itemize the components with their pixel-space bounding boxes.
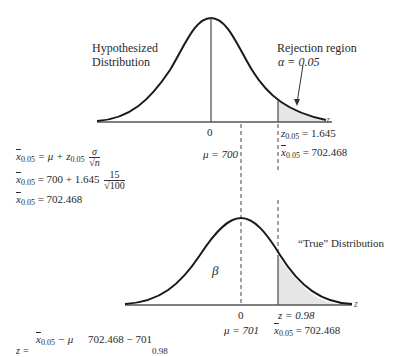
- top-xbar-label: x0.05 = 702.468: [281, 146, 347, 162]
- eq1-sub: 0.05: [21, 155, 35, 164]
- bottom-axis-z-label: z: [354, 298, 358, 310]
- top-mu-label: μ = 700: [203, 148, 238, 160]
- eq1-rhs: = μ +: [38, 150, 67, 162]
- eq2-sub: 0.05: [21, 178, 35, 187]
- rejection-region-label: Rejection region: [277, 42, 357, 54]
- bottom-z-label: z = 0.98: [278, 309, 314, 321]
- bottom-xbar-label: x0.05 = 702.468: [274, 324, 340, 340]
- arrow-head-icon: [294, 99, 300, 106]
- true-distribution: [125, 218, 352, 305]
- top-axis-z-label: z: [326, 114, 330, 126]
- eq2-fraction: 15√100: [104, 170, 125, 191]
- bottom-bell-curve: [125, 218, 352, 304]
- footer-z-lhs: z =: [16, 345, 29, 357]
- footer-numerator: x0.05 − μ: [36, 333, 73, 349]
- footer-sub: 0.05: [41, 338, 55, 347]
- xbar-sub: 0.05: [286, 151, 300, 160]
- z-sub: 0.05: [285, 132, 299, 141]
- true-distribution-label: “True” Distribution: [298, 237, 384, 249]
- bottom-xbar-sub: 0.05: [279, 329, 293, 338]
- hypothesized-label-line2: Distribution: [92, 56, 150, 68]
- rejection-arrow: [297, 65, 303, 103]
- eq3-sub: 0.05: [21, 198, 35, 207]
- hypothesized-label-line1: Hypothesized: [92, 42, 158, 54]
- eq1-den: √n: [89, 158, 100, 168]
- top-zero-tick: 0: [207, 126, 213, 138]
- eq2-den: √100: [104, 181, 125, 191]
- bottom-mu-label: μ = 701: [224, 324, 259, 336]
- bottom-xbar-value: = 702.468: [296, 324, 341, 336]
- z-crit-value: = 1.645: [302, 127, 336, 139]
- bottom-zero-tick: 0: [238, 309, 244, 321]
- alpha-label: α = 0.05: [278, 56, 319, 68]
- xbar-value: = 702.468: [303, 146, 348, 158]
- hypothesized-distribution: [97, 18, 332, 122]
- eq1-z-sub: 0.05: [71, 155, 85, 164]
- eq2-rhs: = 700 + 1.645: [38, 173, 100, 185]
- equation-line-2: x0.05 = 700 + 1.645 15√100: [16, 170, 125, 191]
- equation-line-1: x0.05 = μ + z0.05 σ√n: [16, 147, 100, 168]
- eq1-fraction: σ√n: [89, 147, 100, 168]
- equation-line-3: x0.05 = 702.468: [16, 193, 82, 209]
- footer-result: 0.98: [152, 345, 168, 357]
- eq3-rhs: = 702.468: [38, 193, 83, 205]
- beta-label: β: [212, 265, 218, 277]
- z-critical-label: z0.05 = 1.645: [281, 127, 336, 143]
- power-region-shade: [278, 257, 352, 305]
- footer-middle: 702.468 − 701: [88, 333, 152, 345]
- footer-minus-mu: − μ: [55, 333, 73, 345]
